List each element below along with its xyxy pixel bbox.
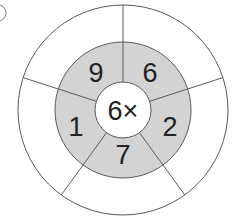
inner-number-bottom: 7 (115, 140, 130, 170)
center-label: 6× (108, 96, 139, 126)
inner-number-upper-right: 6 (142, 58, 157, 88)
inner-number-upper-left: 9 (88, 58, 103, 88)
multiplication-wheel: 6× 6 2 7 1 9 (0, 0, 235, 216)
inner-number-left: 1 (68, 112, 83, 142)
inner-number-right: 2 (162, 112, 177, 142)
corner-circle-mark (0, 5, 6, 21)
